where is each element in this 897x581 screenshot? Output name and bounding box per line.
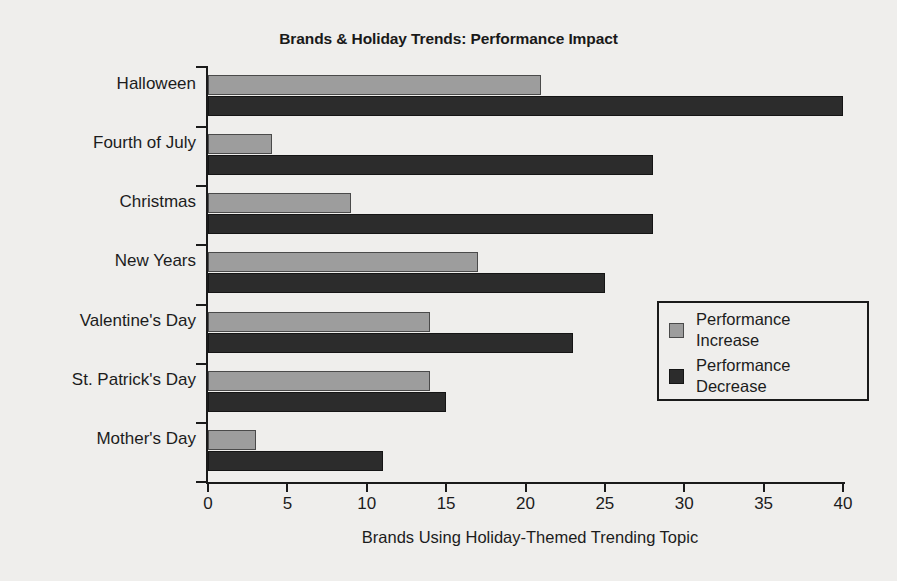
- y-axis-tick: [196, 244, 207, 246]
- x-axis-tick-label: 20: [496, 494, 556, 514]
- x-axis-tick: [525, 482, 527, 492]
- y-axis-tick: [196, 304, 207, 306]
- x-axis-title: Brands Using Holiday-Themed Trending Top…: [180, 528, 880, 547]
- y-axis-tick: [196, 363, 207, 365]
- y-axis-label: Mother's Day: [6, 429, 196, 449]
- bar-group: [208, 193, 843, 252]
- y-axis-label: New Years: [6, 251, 196, 271]
- x-axis-tick: [445, 482, 447, 492]
- legend-label-decrease-line1: Performance: [696, 356, 790, 374]
- chart-legend: Performance Increase Performance Decreas…: [657, 301, 869, 401]
- bar-decrease: [208, 155, 653, 175]
- legend-item-performance-increase: Performance Increase: [669, 308, 865, 352]
- bar-increase: [208, 371, 430, 391]
- y-axis-label: Valentine's Day: [6, 311, 196, 331]
- y-axis-tick: [196, 185, 207, 187]
- x-axis-tick: [286, 482, 288, 492]
- legend-item-performance-decrease: Performance Decrease: [669, 354, 865, 398]
- bar-chart: Brands & Holiday Trends: Performance Imp…: [0, 0, 897, 581]
- x-axis-tick-label: 30: [654, 494, 714, 514]
- y-axis-label: Fourth of July: [6, 133, 196, 153]
- x-axis-tick: [366, 482, 368, 492]
- y-axis-label: Christmas: [6, 192, 196, 212]
- y-axis-tick: [196, 481, 207, 483]
- legend-swatch-decrease-icon: [669, 369, 684, 384]
- x-axis-tick: [683, 482, 685, 492]
- y-axis-label: Halloween: [6, 74, 196, 94]
- y-axis-tick: [196, 126, 207, 128]
- bar-increase: [208, 312, 430, 332]
- legend-label-increase-line2: Increase: [696, 331, 759, 349]
- x-axis-tick-label: 40: [813, 494, 873, 514]
- x-axis-tick-label: 5: [257, 494, 317, 514]
- x-axis-tick: [842, 482, 844, 492]
- bar-group: [208, 134, 843, 193]
- bar-decrease: [208, 392, 446, 412]
- bar-decrease: [208, 96, 843, 116]
- x-axis-tick-label: 15: [416, 494, 476, 514]
- x-axis-tick: [207, 482, 209, 492]
- x-axis-tick: [763, 482, 765, 492]
- plot-area: [208, 68, 843, 482]
- legend-label-decrease-line2: Decrease: [696, 377, 767, 395]
- legend-label-increase: Performance Increase: [696, 309, 790, 351]
- bar-increase: [208, 193, 351, 213]
- x-axis-tick-label: 35: [734, 494, 794, 514]
- y-axis-tick: [196, 422, 207, 424]
- bar-decrease: [208, 451, 383, 471]
- chart-title: Brands & Holiday Trends: Performance Imp…: [0, 30, 897, 48]
- x-axis-tick-label: 25: [575, 494, 635, 514]
- y-axis-tick: [196, 66, 207, 68]
- y-axis-label: St. Patrick's Day: [6, 370, 196, 390]
- bar-increase: [208, 252, 478, 272]
- legend-swatch-increase-icon: [669, 323, 684, 338]
- bar-increase: [208, 75, 541, 95]
- bar-increase: [208, 134, 272, 154]
- legend-label-increase-line1: Performance: [696, 310, 790, 328]
- bar-decrease: [208, 333, 573, 353]
- x-axis-tick-label: 10: [337, 494, 397, 514]
- legend-label-decrease: Performance Decrease: [696, 355, 790, 397]
- y-axis-category-labels: HalloweenFourth of JulyChristmasNew Year…: [0, 68, 196, 482]
- bar-decrease: [208, 214, 653, 234]
- bar-increase: [208, 430, 256, 450]
- bar-group: [208, 430, 843, 489]
- x-axis-tick-label: 0: [178, 494, 238, 514]
- bar-group: [208, 75, 843, 134]
- x-axis-tick: [604, 482, 606, 492]
- bar-decrease: [208, 273, 605, 293]
